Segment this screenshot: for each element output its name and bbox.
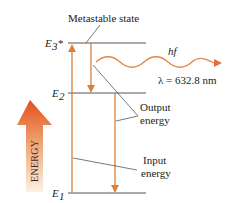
wavelength-label: λ = 632.8 nm <box>158 74 217 86</box>
input-pointer-line <box>73 158 137 170</box>
svg-text:3: 3 <box>51 40 58 52</box>
photon-label: hf <box>168 45 179 57</box>
svg-text:E: E <box>51 187 59 199</box>
svg-text:E: E <box>51 87 59 99</box>
input-label-line2: energy <box>141 167 171 179</box>
metastable-state-label: Metastable state <box>68 12 139 24</box>
svg-text:*: * <box>58 37 64 49</box>
photon-wave <box>96 57 214 68</box>
output-label-line1: Output <box>140 101 171 113</box>
level-e2-label: E 2 <box>51 87 65 102</box>
svg-text:E: E <box>44 37 52 49</box>
laser-energy-diagram: Metastable state E 3 * E 2 E 1 hf λ = 63… <box>0 0 232 203</box>
photon-arrowhead-icon <box>214 59 222 67</box>
energy-arrow-icon: ENERGY <box>17 100 52 192</box>
metastable-pointer-line <box>86 25 100 43</box>
level-e1-label: E 1 <box>51 187 65 202</box>
output-label-line2: energy <box>140 114 170 126</box>
svg-text:2: 2 <box>59 90 65 102</box>
svg-text:1: 1 <box>59 190 65 202</box>
energy-label: ENERGY <box>29 140 40 182</box>
level-e3-label: E 3 * <box>44 37 64 52</box>
input-label-line1: Input <box>143 154 166 166</box>
output-pointer-line-2 <box>116 116 138 121</box>
